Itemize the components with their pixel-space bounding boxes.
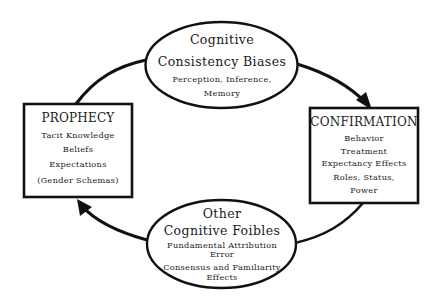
- node-title: Cognitive Foibles: [147, 225, 297, 238]
- node-title: PROPHECY: [24, 112, 132, 124]
- node-detail: Tacit Knowledge: [24, 131, 132, 139]
- node-title: Consistency Biases: [146, 56, 298, 69]
- node-detail: Expectations: [24, 160, 132, 168]
- node-detail: Treatment: [310, 147, 418, 155]
- arrow-consistency-to-confirmation: [297, 64, 367, 104]
- node-detail: (Gender Schemas): [24, 176, 132, 184]
- cognitive-foibles-text: Other Cognitive Foibles Fundamental Attr…: [147, 208, 297, 281]
- node-detail: Power: [310, 186, 418, 194]
- node-title: Cognitive: [146, 34, 298, 47]
- node-detail: Memory: [146, 89, 298, 97]
- diagram-canvas: Cognitive Consistency Biases Perception,…: [0, 0, 440, 300]
- node-detail: Beliefs: [24, 145, 132, 153]
- node-detail: Error: [147, 250, 297, 258]
- arrow-foibles-to-prophecy: [82, 206, 147, 240]
- node-detail: Effects: [147, 273, 297, 281]
- node-title: Other: [147, 208, 297, 221]
- prophecy-text: PROPHECY Tacit Knowledge Beliefs Expecta…: [24, 112, 132, 184]
- node-title: CONFIRMATION: [310, 116, 418, 128]
- node-detail: Perception, Inference,: [146, 75, 298, 83]
- confirmation-text: CONFIRMATION Behavior Treatment Expectan…: [310, 116, 418, 194]
- node-detail: Roles, Status,: [310, 173, 418, 181]
- node-detail: Expectancy Effects: [310, 159, 418, 167]
- consistency-biases-text: Cognitive Consistency Biases Perception,…: [146, 34, 298, 97]
- connector-confirmation-to-foibles: [295, 203, 363, 243]
- connector-prophecy-to-consistency: [76, 60, 146, 104]
- node-detail: Fundamental Attribution: [147, 241, 297, 249]
- node-detail: Consensus and Familiarity: [147, 263, 297, 271]
- node-detail: Behavior: [310, 134, 418, 142]
